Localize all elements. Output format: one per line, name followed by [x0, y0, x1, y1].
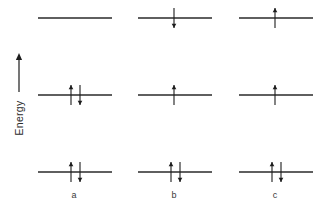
spin-up-arrowhead-icon — [69, 85, 74, 89]
level-a-lower-level — [38, 162, 112, 182]
level-b-middle-level — [138, 85, 212, 105]
level-b-lower-level — [138, 162, 212, 182]
energy-axis: Energy — [13, 53, 25, 136]
spin-down-arrowhead-icon — [78, 101, 83, 105]
level-c-lower-level — [239, 162, 313, 182]
spin-down-arrowhead-icon — [178, 178, 183, 182]
spin-down-arrowhead-icon — [172, 24, 177, 28]
spin-up-arrowhead-icon — [172, 85, 177, 89]
column-c — [239, 8, 313, 182]
energy-axis-label: Energy — [13, 100, 25, 136]
column-label-c: c — [273, 190, 278, 200]
level-c-upper-level — [239, 8, 313, 28]
column-label-a: a — [71, 190, 76, 200]
level-b-upper-level — [138, 8, 212, 28]
column-labels-group: abc — [71, 190, 277, 200]
level-a-middle-level — [38, 85, 112, 105]
energy-level-diagram: Energy abc — [0, 0, 326, 214]
column-a — [38, 18, 112, 182]
spin-down-arrowhead-icon — [279, 178, 284, 182]
energy-axis-arrowhead-icon — [16, 53, 22, 60]
column-b — [138, 8, 212, 182]
column-label-b: b — [171, 190, 176, 200]
level-c-middle-level — [239, 85, 313, 105]
spin-up-arrowhead-icon — [69, 162, 74, 166]
spin-down-arrowhead-icon — [78, 178, 83, 182]
spin-up-arrowhead-icon — [270, 162, 275, 166]
spin-up-arrowhead-icon — [273, 8, 278, 12]
spin-up-arrowhead-icon — [169, 162, 174, 166]
spin-up-arrowhead-icon — [273, 85, 278, 89]
diagram-canvas: Energy abc — [0, 0, 326, 214]
energy-levels-group — [38, 8, 313, 182]
